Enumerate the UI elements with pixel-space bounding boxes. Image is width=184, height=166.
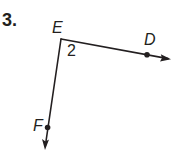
angle-diagram <box>0 0 184 166</box>
point-f <box>45 125 51 131</box>
point-label-d: D <box>144 31 156 49</box>
vertex-label-e: E <box>52 19 63 37</box>
point-label-f: F <box>33 117 43 135</box>
point-d <box>144 52 150 58</box>
angle-label: 2 <box>67 42 76 60</box>
